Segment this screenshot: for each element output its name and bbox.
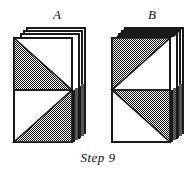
figure-root: A B — [0, 0, 196, 171]
panel-label-a: A — [45, 8, 69, 21]
stack-a-right-edges — [72, 82, 86, 142]
stack-a-diagram — [6, 22, 92, 146]
stack-b-diagram — [104, 22, 190, 146]
stack-a-front-sheet — [14, 38, 72, 142]
figure-caption: Step 9 — [0, 150, 196, 165]
stack-b-front-sheet — [112, 38, 170, 142]
stack-b-top-edges — [116, 28, 183, 37]
stack-b-right-edges — [170, 82, 184, 142]
panel-label-b: B — [140, 8, 164, 21]
